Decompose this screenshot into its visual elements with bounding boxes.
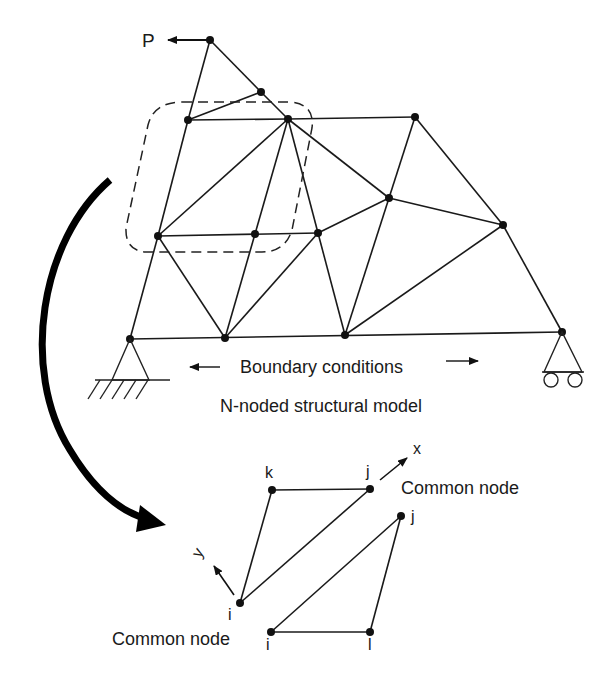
model-caption: N-noded structural model [220,396,422,416]
y-axis-arrow [214,566,234,595]
node-label-j-lower: j [410,508,415,525]
element-triangle-kji [240,489,370,603]
x-axis-label: x [413,440,421,457]
pin-support [88,339,170,399]
node-label-i-upper: i [228,606,232,623]
structural-model-diagram: P Boundary conditions N-noded structural… [0,0,607,686]
boundary-label: Boundary conditions [240,357,403,377]
common-node-label-right: Common node [401,478,519,498]
truss-members [130,40,562,339]
load-label: P [142,30,155,51]
node-label-l: l [368,636,372,653]
truss-nodes [126,36,566,343]
roller-support [542,332,584,387]
selection-region-dashed [126,102,312,252]
node-label-j-upper: j [365,463,370,480]
x-axis-arrow [380,458,407,480]
y-axis-label: y [188,545,207,560]
diagram-canvas: P Boundary conditions N-noded structural… [0,0,607,686]
node-label-i-lower: i [266,636,270,653]
node-label-k: k [265,464,274,481]
element-triangle-jil [271,516,401,632]
common-node-label-left: Common node [112,629,230,649]
extraction-curved-arrow [42,180,166,532]
